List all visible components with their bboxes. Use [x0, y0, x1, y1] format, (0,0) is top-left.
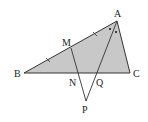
geometry-diagram: A B C M N Q P: [0, 0, 148, 122]
label-q: Q: [96, 77, 104, 88]
label-n: N: [69, 77, 76, 88]
label-c: C: [133, 68, 140, 79]
label-a: A: [114, 8, 122, 19]
label-b: B: [14, 68, 21, 79]
angle-mark-qac: [115, 31, 117, 33]
angle-mark-baq: [109, 28, 111, 30]
label-m: M: [62, 37, 71, 48]
label-p: P: [82, 104, 88, 115]
